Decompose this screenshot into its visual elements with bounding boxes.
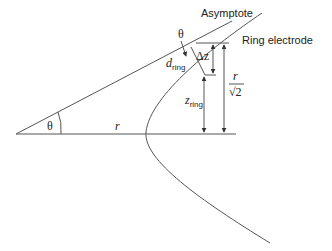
ring-electrode-label: Ring electrode bbox=[242, 34, 313, 46]
z-ring-label: zring bbox=[184, 93, 203, 109]
r-over-sqrt2-label: r √2 bbox=[229, 69, 244, 99]
asymptote-label: Asymptote bbox=[201, 7, 253, 19]
ion-trap-geometry-diagram: Asymptote Ring electrode θ θ r Δz dring … bbox=[0, 0, 332, 251]
asymptote-line bbox=[16, 21, 232, 134]
svg-text:r: r bbox=[233, 69, 238, 83]
r-base-label: r bbox=[115, 119, 120, 133]
theta-arc bbox=[58, 112, 61, 134]
svg-text:√2: √2 bbox=[229, 85, 242, 99]
theta-top-label: θ bbox=[178, 27, 184, 41]
ring-electrode-curve bbox=[146, 13, 270, 243]
delta-z-label: Δz bbox=[196, 49, 209, 63]
theta-apex-label: θ bbox=[47, 119, 53, 133]
d-ring-label: dring bbox=[166, 56, 185, 72]
theta-arrow bbox=[181, 41, 186, 56]
